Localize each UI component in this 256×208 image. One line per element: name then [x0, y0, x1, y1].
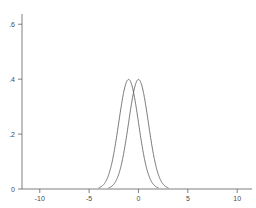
y-tick-label: .2 [0, 131, 15, 138]
plot-area [0, 0, 256, 208]
x-tick-label: 5 [186, 195, 190, 202]
data-series-group [99, 79, 168, 187]
y-axis-ticks [18, 24, 22, 189]
x-axis-ticks [40, 189, 237, 193]
chart-container: 0.2.4.6 -10-50510 [0, 0, 256, 208]
y-tick-label: .6 [0, 21, 15, 28]
density-curve-0 [99, 79, 158, 187]
density-curve-1 [109, 79, 168, 187]
x-tick-label: -10 [35, 195, 45, 202]
x-tick-label: -5 [86, 195, 92, 202]
x-tick-label: 0 [137, 195, 141, 202]
x-tick-label: 10 [233, 195, 241, 202]
y-tick-label: .4 [0, 76, 15, 83]
axes-group [22, 14, 252, 189]
y-tick-label: 0 [0, 186, 15, 193]
